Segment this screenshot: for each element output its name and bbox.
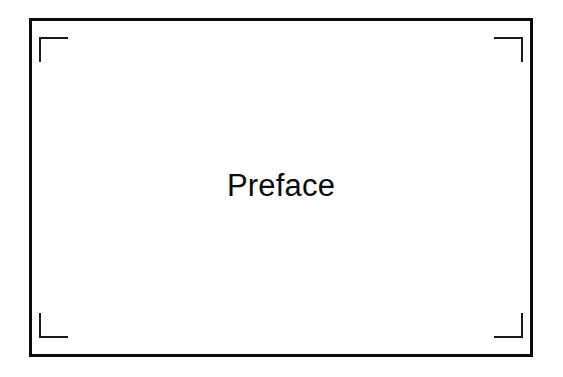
slide-title-container: Preface [32, 21, 530, 354]
slide-content-area: Preface [32, 21, 530, 354]
slide-canvas: Preface [0, 0, 563, 377]
slide-border-frame: Preface [29, 18, 533, 357]
slide-title: Preface [227, 170, 335, 201]
